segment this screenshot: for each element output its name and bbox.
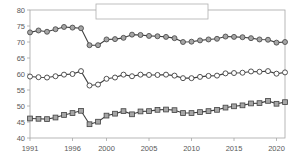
data-point-marker xyxy=(121,109,126,114)
data-point-marker xyxy=(206,109,211,114)
data-point-marker xyxy=(53,27,58,32)
data-point-marker xyxy=(274,71,279,76)
data-point-marker xyxy=(138,32,143,37)
data-point-marker xyxy=(172,108,177,113)
data-point-marker xyxy=(198,74,203,79)
data-point-marker xyxy=(206,37,211,42)
data-point-marker xyxy=(240,103,245,108)
data-point-marker xyxy=(28,74,33,79)
data-point-marker xyxy=(87,83,92,88)
data-point-marker xyxy=(232,104,237,109)
data-point-marker xyxy=(36,116,41,121)
data-point-marker xyxy=(232,71,237,76)
data-point-marker xyxy=(257,69,262,74)
data-point-marker xyxy=(206,73,211,78)
data-point-marker xyxy=(249,69,254,74)
y-axis-tick-label: 75 xyxy=(17,22,25,31)
data-point-marker xyxy=(130,112,135,117)
data-point-marker xyxy=(198,38,203,43)
data-point-marker xyxy=(164,72,169,77)
data-point-marker xyxy=(155,34,160,39)
data-point-marker xyxy=(215,107,220,112)
data-point-marker xyxy=(266,69,271,74)
data-point-marker xyxy=(155,72,160,77)
y-axis-tick-label: 50 xyxy=(17,102,25,111)
y-axis-tick-label: 70 xyxy=(17,38,25,47)
data-point-marker xyxy=(45,75,50,80)
data-point-marker xyxy=(62,24,67,29)
employment-rate-line-chart: 4045505560657075801991199620002005201020… xyxy=(0,0,293,162)
data-point-marker xyxy=(113,75,118,80)
data-point-marker xyxy=(164,34,169,39)
data-point-marker xyxy=(189,111,194,116)
x-axis-tick-label: 1996 xyxy=(64,144,81,153)
data-point-marker xyxy=(198,110,203,115)
y-axis-tick-label: 40 xyxy=(17,134,25,143)
x-axis-tick-label: 1991 xyxy=(22,144,39,153)
data-point-marker xyxy=(240,70,245,75)
data-point-marker xyxy=(113,111,118,116)
data-point-marker xyxy=(266,98,271,103)
data-point-marker xyxy=(147,72,152,77)
data-point-marker xyxy=(257,101,262,106)
data-point-marker xyxy=(223,105,228,110)
data-point-marker xyxy=(70,72,75,77)
data-point-marker xyxy=(28,30,33,35)
data-point-marker xyxy=(138,109,143,114)
chart-svg: 4045505560657075801991199620002005201020… xyxy=(0,0,293,162)
data-point-marker xyxy=(79,69,84,74)
y-axis-tick-label: 80 xyxy=(17,6,25,15)
data-point-marker xyxy=(70,111,75,116)
data-point-marker xyxy=(283,100,288,105)
data-point-marker xyxy=(104,37,109,42)
data-point-marker xyxy=(181,111,186,116)
data-point-marker xyxy=(104,113,109,118)
data-point-marker xyxy=(53,74,58,79)
data-point-marker xyxy=(121,35,126,40)
data-point-marker xyxy=(274,101,279,106)
data-point-marker xyxy=(121,72,126,77)
data-point-marker xyxy=(28,116,33,121)
data-point-marker xyxy=(215,36,220,41)
data-point-marker xyxy=(223,34,228,39)
data-point-marker xyxy=(172,73,177,78)
data-point-marker xyxy=(70,25,75,30)
data-point-marker xyxy=(164,107,169,112)
data-point-marker xyxy=(36,28,41,33)
data-point-marker xyxy=(36,75,41,80)
data-point-marker xyxy=(240,35,245,40)
legend-box xyxy=(96,4,208,19)
data-point-marker xyxy=(53,115,58,120)
data-point-marker xyxy=(96,43,101,48)
data-point-marker xyxy=(257,37,262,42)
data-point-marker xyxy=(223,71,228,76)
data-point-marker xyxy=(266,37,271,42)
y-axis-tick-label: 45 xyxy=(17,118,25,127)
data-point-marker xyxy=(232,34,237,39)
data-point-marker xyxy=(96,119,101,124)
x-axis-tick-label: 2010 xyxy=(183,144,200,153)
data-point-marker xyxy=(155,107,160,112)
y-axis-tick-label: 55 xyxy=(17,86,25,95)
data-point-marker xyxy=(79,26,84,31)
data-point-marker xyxy=(87,43,92,48)
data-point-marker xyxy=(172,36,177,41)
x-axis-tick-label: 2000 xyxy=(98,144,115,153)
data-point-marker xyxy=(62,72,67,77)
data-point-marker xyxy=(249,101,254,106)
data-point-marker xyxy=(189,76,194,81)
x-axis-tick-label: 2015 xyxy=(226,144,243,153)
data-point-marker xyxy=(274,40,279,45)
data-point-marker xyxy=(62,113,67,118)
data-point-marker xyxy=(189,39,194,44)
data-point-marker xyxy=(87,122,92,127)
data-point-marker xyxy=(147,33,152,38)
data-point-marker xyxy=(283,40,288,45)
data-point-marker xyxy=(138,72,143,77)
data-point-marker xyxy=(249,36,254,41)
data-point-marker xyxy=(283,70,288,75)
data-point-marker xyxy=(181,76,186,81)
x-axis-tick-label: 2020 xyxy=(268,144,285,153)
data-point-marker xyxy=(45,117,50,122)
y-axis-tick-label: 60 xyxy=(17,70,25,79)
